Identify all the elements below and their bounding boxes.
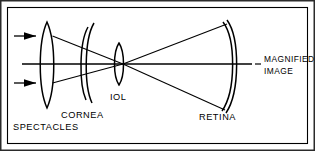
label-retina: RETINA — [199, 112, 236, 122]
incoming-ray-top — [14, 32, 36, 40]
label-spectacles: SPECTACLES — [13, 122, 79, 132]
cornea-arc-outer — [86, 23, 94, 103]
incoming-ray-top-arrowhead — [24, 32, 36, 40]
diagram-canvas: SPECTACLES CORNEA IOL RETINA MAGNIFIED I… — [0, 0, 315, 151]
retina — [222, 20, 237, 113]
cornea — [81, 23, 94, 103]
label-cornea: CORNEA — [61, 110, 104, 120]
incoming-ray-bottom-arrowhead — [24, 79, 36, 87]
refracted-ray-bottom — [53, 64, 124, 83]
label-magnified-image-line1: MAGNIFIED — [264, 54, 315, 64]
spectacle-lens — [40, 22, 54, 108]
retina-arc-inner — [222, 22, 233, 111]
spectacle-lens-outline — [40, 22, 54, 108]
incoming-ray-bottom — [14, 79, 36, 87]
diverging-ray-top — [123, 24, 227, 64]
diverging-ray-bottom — [123, 64, 225, 110]
label-iol: IOL — [110, 92, 126, 102]
optical-diagram-figure: SPECTACLES CORNEA IOL RETINA MAGNIFIED I… — [0, 0, 315, 151]
label-magnified-image-line2: IMAGE — [264, 66, 293, 76]
